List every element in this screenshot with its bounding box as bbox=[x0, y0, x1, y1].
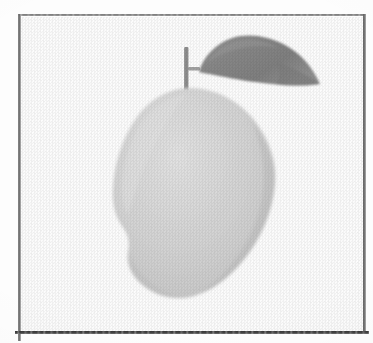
mango-figure bbox=[0, 0, 373, 343]
mango-leaf bbox=[199, 36, 320, 86]
mango-artwork bbox=[0, 0, 373, 343]
mango-stem bbox=[184, 47, 200, 91]
mango-fruit-body bbox=[113, 88, 276, 298]
